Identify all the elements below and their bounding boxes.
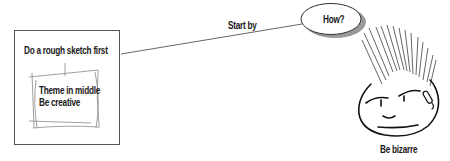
- bizarre-face-icon: [359, 80, 439, 136]
- inner-sketch-line-1: Theme in middle: [39, 85, 100, 97]
- inner-sketch-line-2: Be creative: [39, 97, 80, 109]
- start-by-connector-line: [121, 24, 302, 54]
- face-caption: Be bizarre: [380, 144, 417, 156]
- hair-spikes-icon: [362, 25, 436, 86]
- central-node-label: How?: [323, 14, 344, 26]
- edge-label-start-by: Start by: [228, 20, 257, 32]
- sketch-box-title: Do a rough sketch first: [24, 45, 108, 57]
